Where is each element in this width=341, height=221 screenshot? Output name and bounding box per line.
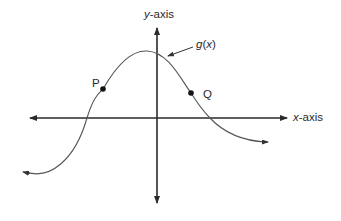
function-curve bbox=[26, 51, 266, 174]
function-close-paren: ) bbox=[212, 38, 216, 50]
graph-canvas bbox=[0, 0, 341, 221]
point-p-dot bbox=[100, 86, 106, 92]
point-q-label: Q bbox=[203, 89, 212, 101]
y-axis-label-suffix: -axis bbox=[150, 8, 174, 20]
x-axis-label-suffix: -axis bbox=[299, 111, 323, 123]
function-label: g(x) bbox=[196, 39, 216, 51]
point-q-dot bbox=[188, 90, 194, 96]
function-graph-figure: y-axis x-axis g(x) P Q bbox=[0, 0, 341, 221]
point-p-label: P bbox=[92, 78, 100, 90]
x-axis-label: x-axis bbox=[293, 112, 323, 124]
y-axis-label: y-axis bbox=[144, 9, 174, 21]
function-label-pointer-icon bbox=[168, 47, 193, 56]
